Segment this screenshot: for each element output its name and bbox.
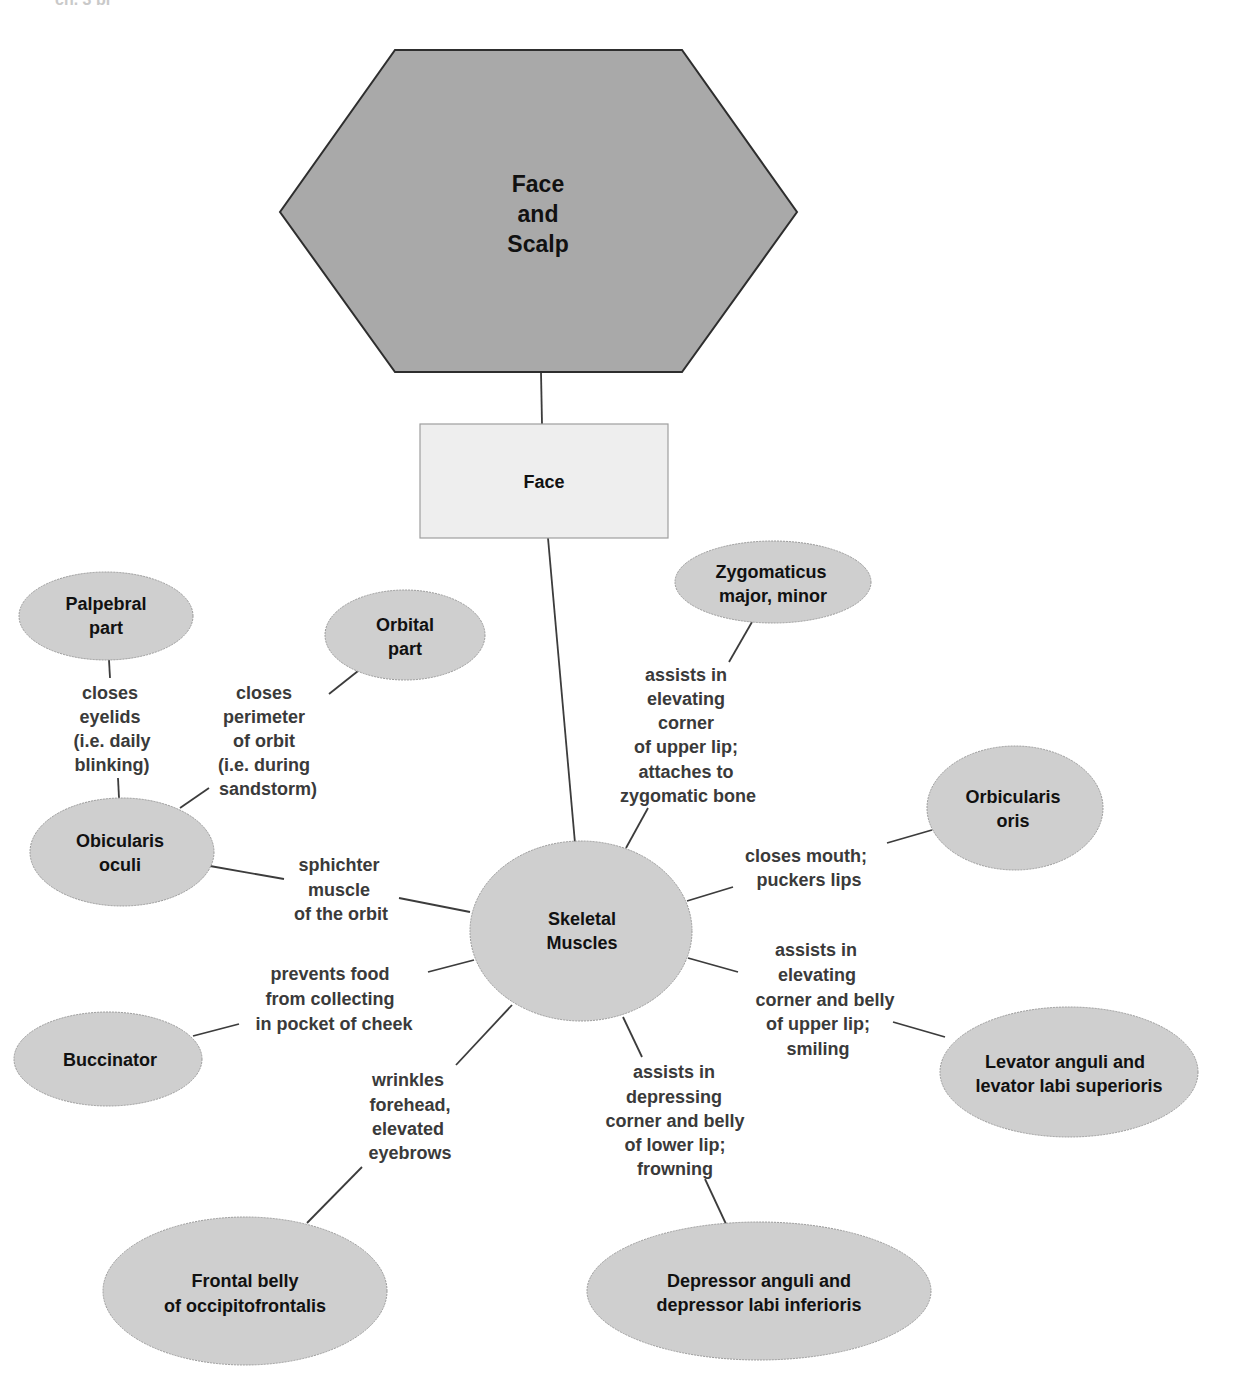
label-zygomaticus-line-4: of upper lip; <box>634 737 738 757</box>
node-palpebral-part: Palpebral part <box>19 572 193 660</box>
label-buccinator-line-3: in pocket of cheek <box>255 1014 413 1034</box>
oculi-line-1: Obicularis <box>76 831 164 851</box>
face-box-node: Face <box>420 424 668 538</box>
oris-line-2: oris <box>996 811 1029 831</box>
root-line-1: Face <box>512 171 564 197</box>
label-palpebral: closes eyelids (i.e. daily blinking) <box>73 683 150 775</box>
label-palpebral-line-3: (i.e. daily <box>73 731 150 751</box>
label-depressor-line-1: assists in <box>633 1062 715 1082</box>
label-zygomaticus-line-1: assists in <box>645 665 727 685</box>
label-frontal-line-1: wrinkles <box>371 1070 444 1090</box>
label-zygomaticus-line-3: corner <box>658 713 714 733</box>
node-zygomaticus: Zygomaticus major, minor <box>675 541 871 623</box>
node-levator: Levator anguli and levator labi superior… <box>940 1007 1198 1137</box>
label-oris-line-1: closes mouth; <box>745 846 867 866</box>
frontal-line-2: of occipitofrontalis <box>164 1296 326 1316</box>
oris-line-1: Orbicularis <box>965 787 1060 807</box>
root-line-2: and <box>518 201 559 227</box>
depressor-line-1: Depressor anguli and <box>667 1271 851 1291</box>
edge-zygomaticus-label <box>729 622 752 662</box>
edge-label-hub-oris <box>687 887 733 901</box>
edge-root-face <box>541 372 542 424</box>
palpebral-ellipse <box>19 572 193 660</box>
label-frontal-line-4: eyebrows <box>368 1143 451 1163</box>
zygomaticus-line-1: Zygomaticus <box>715 562 826 582</box>
orbital-line-2: part <box>388 639 422 659</box>
node-frontal-belly: Frontal belly of occipitofrontalis <box>103 1217 387 1365</box>
edge-label-hub-levator <box>688 958 738 972</box>
label-buccinator-line-2: from collecting <box>265 989 394 1009</box>
edge-palpebral-label <box>109 660 110 678</box>
label-levator-line-5: smiling <box>786 1039 849 1059</box>
zygomaticus-line-2: major, minor <box>719 586 827 606</box>
label-oculi-line-3: of the orbit <box>294 904 388 924</box>
hub-line-2: Muscles <box>546 933 617 953</box>
label-levator-line-2: elevating <box>778 965 856 985</box>
oris-ellipse <box>927 746 1103 870</box>
label-frontal: wrinkles forehead, elevated eyebrows <box>368 1070 451 1163</box>
label-frontal-line-3: elevated <box>372 1119 444 1139</box>
label-orbital-line-4: (i.e. during <box>218 755 310 775</box>
node-buccinator: Buccinator <box>14 1012 202 1106</box>
hub-ellipse <box>470 841 692 1021</box>
root-node-face-and-scalp: Face and Scalp <box>280 50 797 372</box>
node-orbicularis-oris: Orbicularis oris <box>927 746 1103 870</box>
hub-node-skeletal-muscles: Skeletal Muscles <box>470 841 692 1021</box>
label-depressor: assists in depressing corner and belly o… <box>605 1062 744 1179</box>
edge-palpebral-label-oculi <box>118 778 119 798</box>
label-oculi-line-2: muscle <box>308 880 370 900</box>
levator-line-1: Levator anguli and <box>985 1052 1145 1072</box>
edge-oris-label <box>887 830 932 843</box>
edge-depressor-label <box>705 1179 726 1224</box>
palpebral-line-1: Palpebral <box>65 594 146 614</box>
label-levator: assists in elevating corner and belly of… <box>755 940 894 1059</box>
label-depressor-line-4: of lower lip; <box>625 1135 726 1155</box>
edge-label-hub-buccinator <box>428 960 474 972</box>
label-orbital-line-5: sandstorm) <box>219 779 317 799</box>
label-oculi-line-1: sphichter <box>298 855 379 875</box>
concept-map: Face and Scalp Face Skeletal Muscles Pal… <box>0 0 1258 1377</box>
label-zygomaticus: assists in elevating corner of upper lip… <box>620 665 756 806</box>
depressor-line-2: depressor labi inferioris <box>656 1295 861 1315</box>
label-depressor-line-2: depressing <box>626 1087 722 1107</box>
edge-face-hub <box>548 538 575 843</box>
edge-label-hub-zygomaticus <box>626 808 648 848</box>
oculi-line-2: oculi <box>99 855 141 875</box>
depressor-ellipse <box>587 1222 931 1360</box>
label-orbital: closes perimeter of orbit (i.e. during s… <box>218 683 317 799</box>
label-depressor-line-3: corner and belly <box>605 1111 744 1131</box>
label-oculi: sphichter muscle of the orbit <box>294 855 388 924</box>
edge-orbital-label <box>329 671 358 694</box>
edge-oculi-label <box>210 866 284 879</box>
orbital-ellipse <box>325 590 485 680</box>
node-obicularis-oculi: Obicularis oculi <box>30 798 214 906</box>
levator-ellipse <box>940 1007 1198 1137</box>
label-oris: closes mouth; puckers lips <box>745 846 867 890</box>
label-orbital-line-1: closes <box>236 683 292 703</box>
edge-buccinator-label <box>193 1024 239 1036</box>
label-palpebral-line-2: eyelids <box>79 707 140 727</box>
label-orbital-line-2: perimeter <box>223 707 305 727</box>
label-palpebral-line-4: blinking) <box>75 755 150 775</box>
label-levator-line-4: of upper lip; <box>766 1014 870 1034</box>
node-depressor: Depressor anguli and depressor labi infe… <box>587 1222 931 1360</box>
oculi-ellipse <box>30 798 214 906</box>
label-palpebral-line-1: closes <box>82 683 138 703</box>
buccinator-line-1: Buccinator <box>63 1050 157 1070</box>
zygomaticus-ellipse <box>675 541 871 623</box>
edge-frontal-label <box>307 1167 362 1223</box>
label-orbital-line-3: of orbit <box>233 731 295 751</box>
node-orbital-part: Orbital part <box>325 590 485 680</box>
hub-line-1: Skeletal <box>548 909 616 929</box>
palpebral-line-2: part <box>89 618 123 638</box>
frontal-line-1: Frontal belly <box>191 1271 298 1291</box>
levator-line-2: levator labi superioris <box>975 1076 1162 1096</box>
edge-label-hub-frontal <box>456 1005 512 1065</box>
orbital-line-1: Orbital <box>376 615 434 635</box>
label-buccinator: prevents food from collecting in pocket … <box>255 964 413 1034</box>
label-zygomaticus-line-5: attaches to <box>638 762 733 782</box>
label-depressor-line-5: frowning <box>637 1159 713 1179</box>
label-zygomaticus-line-6: zygomatic bone <box>620 786 756 806</box>
edge-label-hub-depressor <box>623 1017 642 1057</box>
frontal-ellipse <box>103 1217 387 1365</box>
